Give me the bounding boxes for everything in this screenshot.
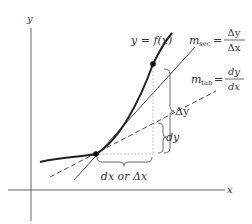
svg-text:=: =	[214, 73, 223, 86]
curve-label: y = f(x)	[130, 34, 172, 47]
svg-text:=: =	[213, 34, 222, 47]
svg-text:tan: tan	[201, 79, 213, 87]
tangent-slope-formula: m tan = dy dx	[191, 66, 244, 92]
secant-slope-formula: m sec = Δy Δx	[189, 27, 245, 53]
dx-label: dx or Δx	[101, 170, 148, 183]
y-axis-label: y	[26, 13, 33, 24]
dy-brace	[158, 123, 166, 153]
point-b	[150, 61, 156, 67]
dy-label: dy	[166, 131, 180, 144]
svg-text:m: m	[191, 73, 201, 86]
svg-text:Δy: Δy	[228, 27, 241, 38]
svg-text:Δx: Δx	[228, 42, 241, 53]
tangent-line	[50, 91, 216, 177]
point-a	[93, 151, 99, 157]
svg-text:m: m	[189, 34, 199, 47]
x-axis-label: x	[227, 184, 233, 195]
svg-text:dx: dx	[228, 81, 240, 92]
dx-brace	[97, 157, 152, 166]
delta-y-label: Δy	[175, 105, 190, 118]
svg-text:dy: dy	[228, 66, 240, 77]
function-curve	[40, 33, 172, 162]
svg-text:sec: sec	[199, 40, 211, 48]
secant-tangent-diagram: y x Δy dy dx or Δx y = f(x) m sec = Δy Δ…	[0, 0, 252, 224]
